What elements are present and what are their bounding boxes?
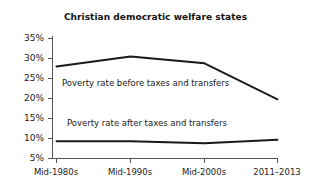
x-tick-label: Mid-1980s [34,168,78,177]
x-tick-label: Mid-1990s [108,168,152,177]
chart-container: Christian democratic welfare states 35% … [0,0,311,189]
x-tick-label: Mid-2000s [182,168,226,177]
x-tick-label: 2011–2013 [253,168,301,177]
x-axis: Mid-1980s Mid-1990s Mid-2000s 2011–2013 [0,0,311,189]
